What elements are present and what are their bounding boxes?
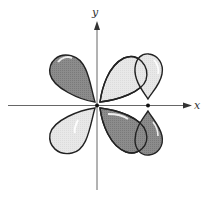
orbital-svg: x y <box>0 0 204 197</box>
x-axis-label: x <box>194 99 201 112</box>
d-lobe-lower-left <box>50 108 95 154</box>
origin-nucleus <box>95 104 99 108</box>
y-axis-arrow-icon <box>94 21 100 30</box>
d-lobe-upper-left <box>50 55 95 102</box>
p-lobe-upper <box>135 54 162 99</box>
x-axis-arrow-icon <box>183 103 192 109</box>
y-axis-label: y <box>91 6 99 19</box>
orbital-diagram: x y <box>0 0 204 197</box>
second-nucleus <box>146 104 150 108</box>
